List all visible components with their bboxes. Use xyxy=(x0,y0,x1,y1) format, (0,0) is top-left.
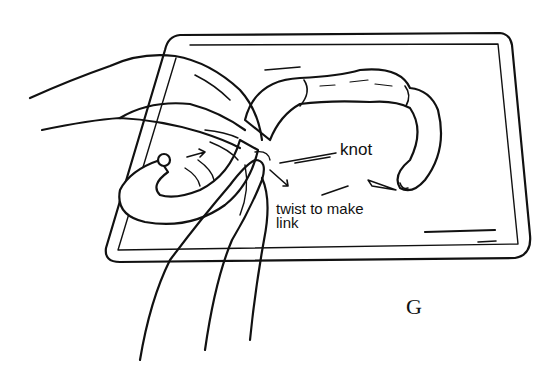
twist-label: twist to make link xyxy=(276,202,386,230)
line-drawing xyxy=(0,0,552,368)
twist-label-line-2: link xyxy=(276,216,386,230)
figure-letter: G xyxy=(406,296,422,318)
sausage-illustration: knot twist to make link G xyxy=(0,0,552,368)
sausage-coil xyxy=(119,140,258,224)
sausage-links xyxy=(245,69,441,190)
knot-label: knot xyxy=(340,141,372,158)
lower-hand xyxy=(140,152,270,360)
leader-lines xyxy=(280,153,348,195)
